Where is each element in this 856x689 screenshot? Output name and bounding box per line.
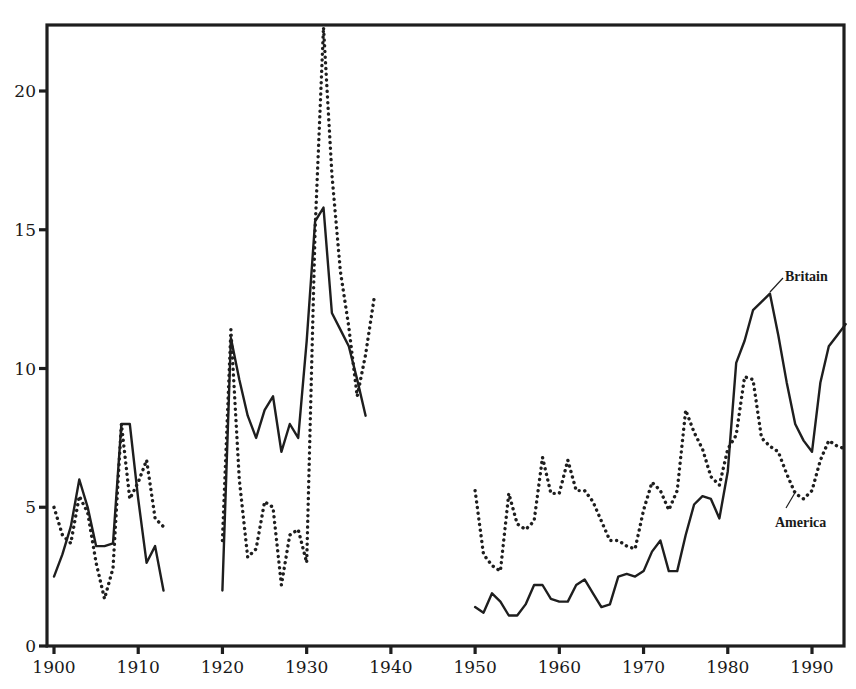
america-line-segment [54,424,164,599]
y-tick-label: 20 [14,81,36,101]
x-tick-label: 1910 [117,657,160,677]
america-label: America [775,515,826,530]
x-tick-label: 1940 [369,657,412,677]
y-tick-label: 15 [14,220,36,240]
line-chart: 05101520 1900191019201930194019501960197… [0,0,856,689]
britain-label: Britain [785,269,828,284]
america-line-segment [222,27,374,585]
x-tick-label: 1960 [538,657,581,677]
x-tick-label: 1920 [201,657,244,677]
x-tick-label: 1970 [622,657,665,677]
x-tick-label: 1990 [790,657,833,677]
plot-border [47,25,844,646]
series-america [54,27,846,599]
x-tick-label: 1900 [32,657,75,677]
america-leader-line [786,491,796,508]
britain-line-segment [54,424,164,591]
x-tick-label: 1950 [453,657,496,677]
x-tick-label: 1980 [706,657,749,677]
y-tick-label: 0 [25,636,36,656]
y-axis: 05101520 [14,81,48,656]
series-layer [54,27,846,615]
y-tick-label: 10 [14,359,36,379]
y-tick-label: 5 [25,497,36,517]
britain-leader-line [770,278,783,292]
britain-line-segment [475,294,846,616]
series-britain [54,208,846,616]
x-axis: 1900191019201930194019501960197019801990 [32,645,833,677]
plot-frame [47,25,844,646]
x-tick-label: 1930 [285,657,328,677]
